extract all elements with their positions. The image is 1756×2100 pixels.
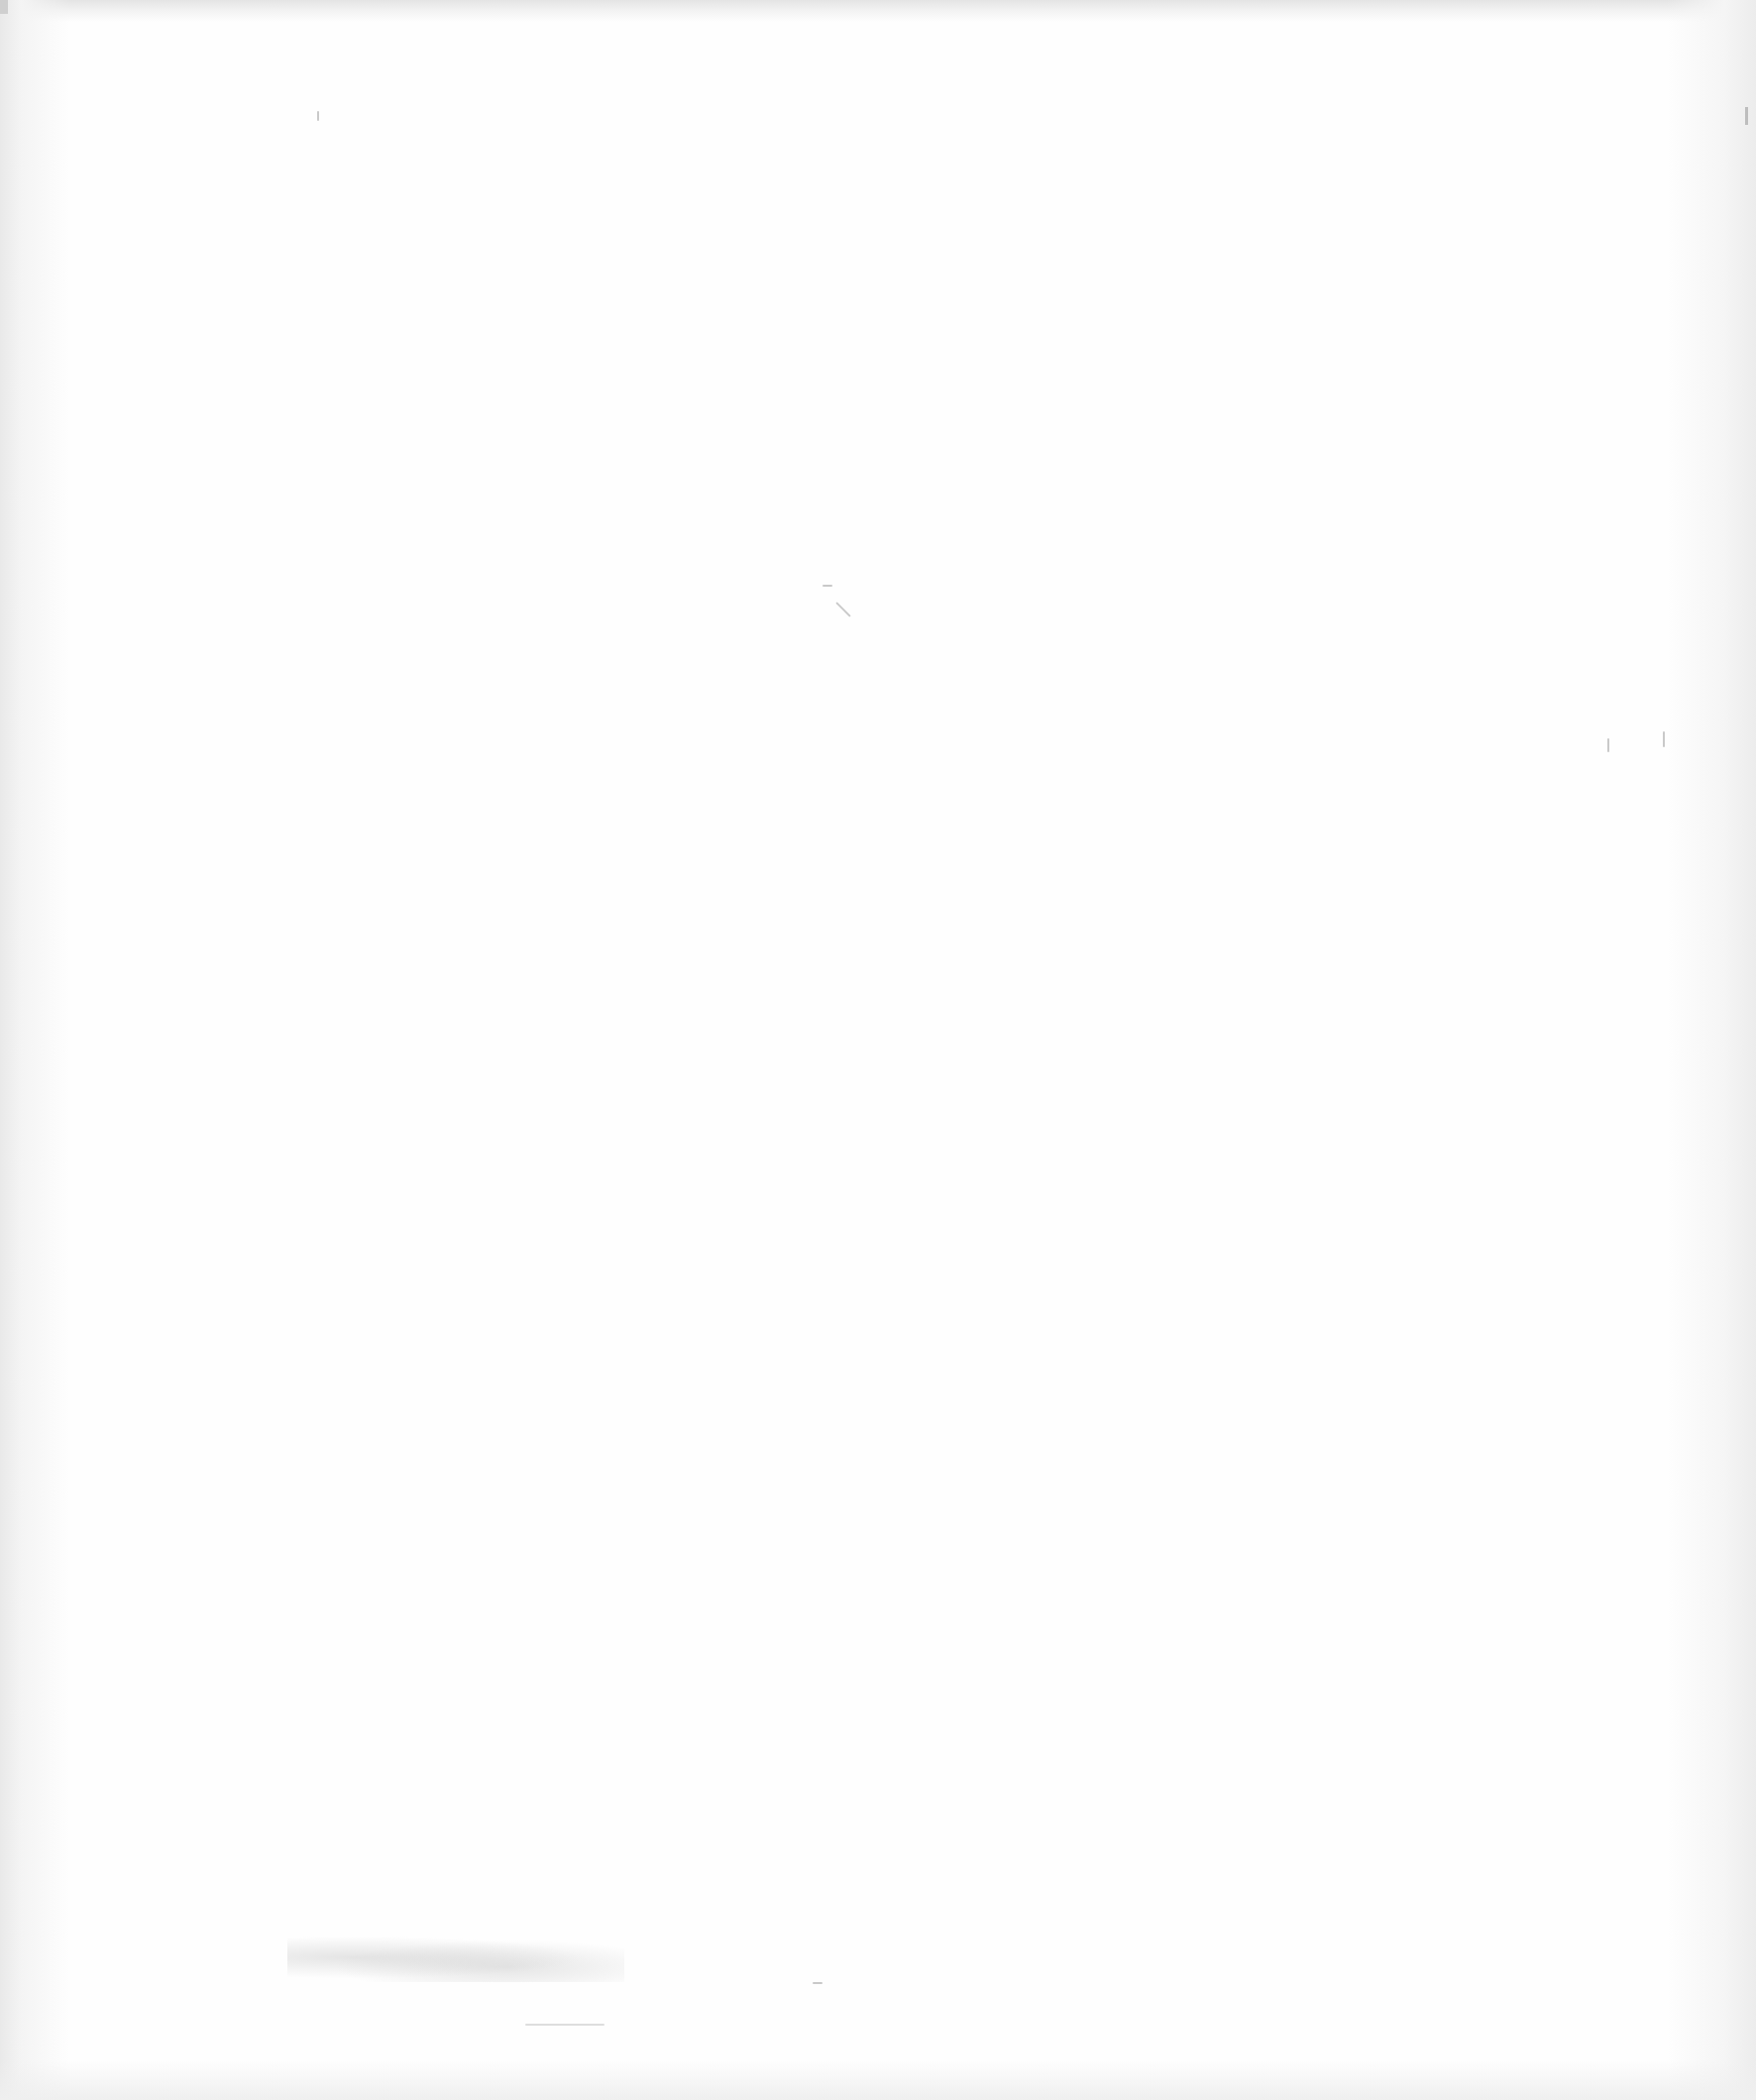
scan-speck: [1607, 738, 1609, 752]
scan-edge-bottom: [0, 2060, 1756, 2100]
scan-speck: [823, 585, 832, 587]
scan-corner-mark: [0, 0, 8, 14]
scan-edge-top: [0, 0, 1756, 22]
blank-document-page: [0, 0, 1756, 2100]
scan-speck: [1663, 731, 1665, 747]
scan-speck: [317, 111, 319, 121]
scan-edge-right: [1667, 0, 1756, 2100]
scan-smudge: [287, 1933, 624, 1982]
scan-margin-mark: [1745, 107, 1748, 125]
scan-speck: [525, 2024, 604, 2026]
scan-edge-left: [0, 0, 69, 2100]
scan-speck: [835, 602, 851, 617]
scan-speck: [813, 1982, 823, 1984]
